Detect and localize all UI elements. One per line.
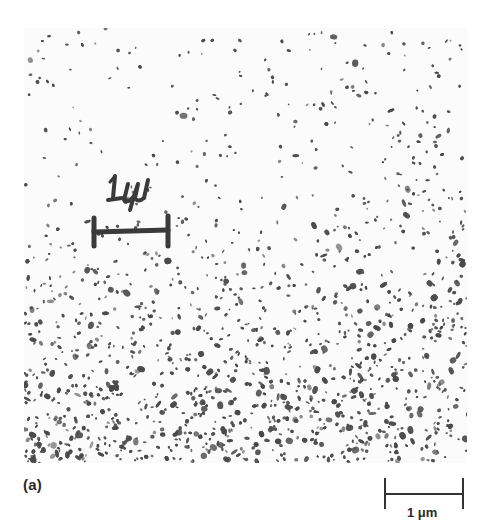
panel-label: (a) — [23, 476, 42, 493]
scale-bar-right-tick — [462, 478, 464, 509]
figure: (a) 1 μm — [0, 0, 495, 531]
scale-bar-line — [384, 493, 464, 495]
handwritten-scale-annotation — [88, 168, 188, 260]
scale-bar-label: 1 μm — [407, 505, 437, 520]
scale-bar — [384, 478, 464, 508]
